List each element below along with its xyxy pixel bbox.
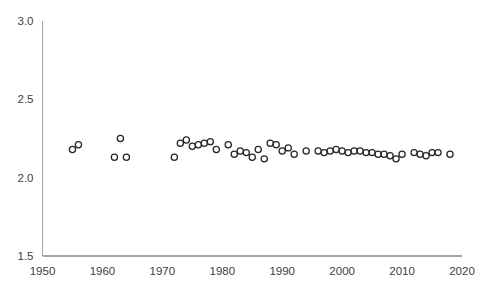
data-point-marker bbox=[267, 140, 273, 146]
data-point-marker bbox=[399, 151, 405, 157]
y-tick-label: 1.5 bbox=[18, 250, 34, 262]
data-point-marker bbox=[237, 148, 243, 154]
data-point-marker bbox=[225, 142, 231, 148]
data-point-marker bbox=[369, 150, 375, 156]
axis-lines bbox=[43, 21, 463, 256]
data-point-marker bbox=[213, 146, 219, 152]
data-point-marker bbox=[435, 150, 441, 156]
data-point-marker bbox=[183, 137, 189, 143]
data-point-marker bbox=[447, 151, 453, 157]
data-point-marker bbox=[381, 151, 387, 157]
data-points bbox=[69, 135, 453, 162]
data-point-marker bbox=[207, 139, 213, 145]
data-point-marker bbox=[327, 148, 333, 154]
data-point-marker bbox=[117, 135, 123, 141]
data-point-marker bbox=[279, 148, 285, 154]
data-point-marker bbox=[375, 151, 381, 157]
data-point-marker bbox=[189, 143, 195, 149]
data-point-marker bbox=[291, 151, 297, 157]
data-point-marker bbox=[243, 150, 249, 156]
data-point-marker bbox=[273, 142, 279, 148]
data-point-marker bbox=[393, 156, 399, 162]
y-tick-label: 2.0 bbox=[18, 172, 34, 184]
data-point-marker bbox=[177, 140, 183, 146]
data-point-marker bbox=[231, 151, 237, 157]
data-point-marker bbox=[75, 142, 81, 148]
data-point-marker bbox=[351, 148, 357, 154]
scatter-chart: 1.52.02.53.0 195019601970198019902000201… bbox=[0, 0, 485, 296]
x-tick-label: 2020 bbox=[449, 265, 475, 277]
data-point-marker bbox=[303, 148, 309, 154]
data-point-marker bbox=[315, 148, 321, 154]
data-point-marker bbox=[261, 156, 267, 162]
y-axis: 1.52.02.53.0 bbox=[18, 15, 34, 262]
data-point-marker bbox=[123, 154, 129, 160]
data-point-marker bbox=[387, 153, 393, 159]
x-tick-label: 2000 bbox=[329, 265, 355, 277]
x-tick-label: 1960 bbox=[90, 265, 116, 277]
data-point-marker bbox=[339, 148, 345, 154]
chart-canvas: 1.52.02.53.0 195019601970198019902000201… bbox=[0, 0, 485, 296]
x-tick-label: 1950 bbox=[30, 265, 56, 277]
data-point-marker bbox=[411, 150, 417, 156]
data-point-marker bbox=[249, 154, 255, 160]
data-point-marker bbox=[429, 150, 435, 156]
data-point-marker bbox=[171, 154, 177, 160]
data-point-marker bbox=[345, 150, 351, 156]
data-point-marker bbox=[201, 140, 207, 146]
x-tick-label: 1990 bbox=[269, 265, 295, 277]
data-point-marker bbox=[69, 146, 75, 152]
x-tick-label: 1980 bbox=[209, 265, 235, 277]
x-tick-label: 2010 bbox=[389, 265, 415, 277]
data-point-marker bbox=[363, 150, 369, 156]
y-tick-label: 3.0 bbox=[18, 15, 34, 27]
data-point-marker bbox=[417, 151, 423, 157]
data-point-marker bbox=[357, 148, 363, 154]
data-point-marker bbox=[111, 154, 117, 160]
data-point-marker bbox=[333, 146, 339, 152]
data-point-marker bbox=[423, 153, 429, 159]
data-point-marker bbox=[255, 146, 261, 152]
data-point-marker bbox=[321, 150, 327, 156]
data-point-marker bbox=[285, 145, 291, 151]
data-point-marker bbox=[195, 142, 201, 148]
y-tick-label: 2.5 bbox=[18, 93, 34, 105]
x-axis: 19501960197019801990200020102020 bbox=[30, 265, 475, 277]
x-tick-label: 1970 bbox=[150, 265, 176, 277]
